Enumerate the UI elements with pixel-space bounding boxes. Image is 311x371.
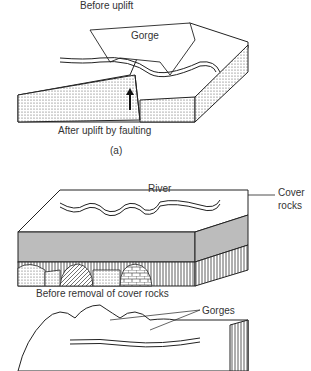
label-river: River (148, 183, 171, 194)
cover-rocks-block (18, 190, 275, 286)
label-after-uplift: After uplift by faulting (58, 125, 151, 136)
label-gorge: Gorge (131, 30, 159, 41)
label-before-uplift: Before uplift (80, 0, 133, 11)
label-cover: Cover (278, 187, 305, 198)
label-rocks: rocks (278, 200, 302, 211)
label-gorges: Gorges (202, 305, 235, 316)
label-before-removal: Before removal of cover rocks (36, 288, 169, 299)
panel-label-a: (a) (110, 145, 122, 156)
